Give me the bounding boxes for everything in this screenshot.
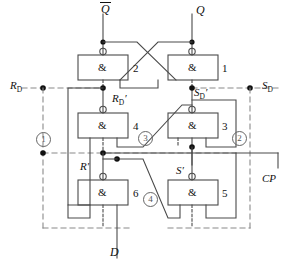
gate-6-left-feed	[68, 205, 90, 218]
circled-number-2: 2	[232, 131, 247, 146]
gate-4-symbol: &	[98, 119, 107, 131]
signal-label-q-bar: Q	[100, 2, 111, 17]
gate-number-2: 2	[133, 62, 139, 74]
gate-number-5: 5	[222, 187, 228, 199]
gate-5-right-feed	[206, 153, 236, 218]
rd-base: R	[10, 79, 17, 91]
circled-number-1: 1	[36, 132, 51, 147]
gate-3-symbol: &	[188, 119, 197, 131]
signal-label-r-prime: R′	[80, 160, 89, 172]
signal-label-d: D	[110, 245, 119, 260]
gate-2-symbol: &	[98, 61, 107, 73]
q-bar-overline-text: Q	[100, 2, 111, 16]
signal-label-rd: RD	[10, 79, 22, 94]
signal-label-s-prime: S′	[176, 164, 184, 176]
gate-1-symbol: &	[188, 61, 197, 73]
r-prime-base: R	[80, 160, 87, 172]
s-prime-mark: ′	[182, 164, 184, 176]
signal-label-cp: CP	[262, 172, 276, 184]
signal-label-sd-prime: SD′	[194, 86, 207, 101]
signal-label-rd-prime: RD′	[112, 92, 127, 107]
r-prime-mark: ′	[87, 160, 89, 172]
logic-diagram-canvas: & & & & & & 2 1 4 3 6 5 Q Q RD SD RD′ SD…	[0, 0, 300, 269]
sd-prime-mark: ′	[205, 86, 207, 98]
gate-3-right-feed	[192, 100, 236, 147]
gate-6-symbol: &	[98, 186, 107, 198]
diagonal-4-wire	[117, 159, 180, 218]
region-1-mid-dot	[40, 150, 46, 156]
gate-number-1: 1	[222, 62, 228, 74]
signal-label-q: Q	[196, 3, 205, 18]
circled-number-4: 4	[143, 192, 158, 207]
signal-label-sd: SD	[262, 79, 273, 94]
rd-prime-mark: ′	[124, 92, 126, 104]
circled-number-3: 3	[138, 131, 153, 146]
gate-number-4: 4	[133, 120, 139, 132]
gate-number-3: 3	[222, 120, 228, 132]
rd-prime-base: R	[112, 92, 119, 104]
gate2-input-return	[120, 80, 158, 88]
rd-sub: D	[17, 85, 22, 94]
sd-sub: D	[268, 85, 273, 94]
gate-5-symbol: &	[188, 186, 197, 198]
gate-number-6: 6	[133, 187, 139, 199]
